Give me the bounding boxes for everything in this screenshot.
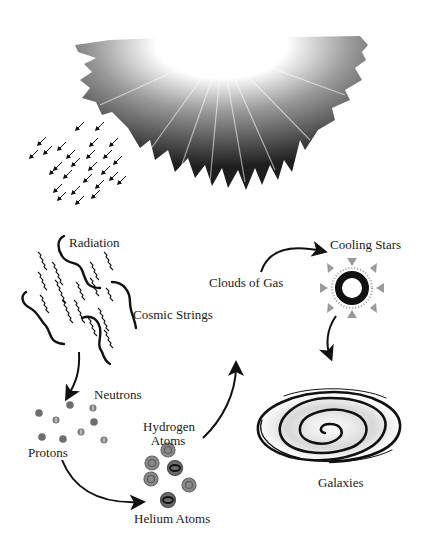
label-clouds-of-gas: Clouds of Gas — [209, 276, 283, 289]
label-hydrogen-line1: Hydrogen — [143, 420, 193, 433]
label-cooling-stars: Cooling Stars — [330, 238, 401, 251]
label-helium-atoms: Helium Atoms — [134, 512, 210, 525]
label-neutrons: Neutrons — [94, 388, 142, 401]
label-galaxies: Galaxies — [318, 476, 363, 489]
arrow-clouds-to-stars — [261, 248, 322, 272]
arrow-protons-to-helium — [62, 460, 140, 502]
arrow-hydrogen-to-clouds — [203, 366, 236, 438]
big-bang-burst — [75, 36, 368, 190]
helium-atoms-cluster — [161, 461, 183, 508]
cosmic-strings-lines — [23, 236, 136, 364]
cooling-star — [320, 258, 384, 318]
protons — [35, 401, 98, 443]
label-hydrogen-line2: Atoms — [143, 434, 193, 447]
label-protons: Protons — [28, 446, 68, 459]
arrow-stars-to-galaxies — [328, 316, 336, 356]
label-cosmic-strings: Cosmic Strings — [133, 308, 213, 321]
arrow-strings-to-particles — [68, 352, 79, 396]
galaxy-spiral — [258, 389, 402, 462]
radiation-arrows — [31, 122, 126, 203]
label-radiation: Radiation — [69, 236, 120, 249]
